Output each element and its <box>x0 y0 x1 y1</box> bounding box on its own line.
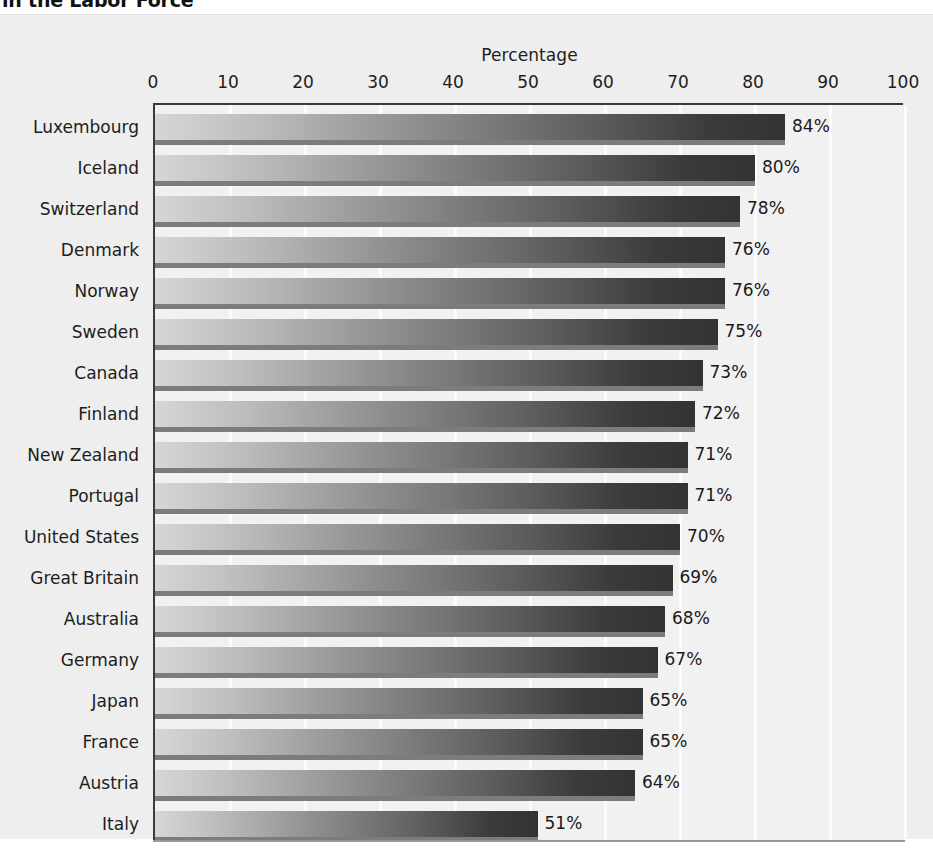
bar-united-states[interactable] <box>155 524 680 550</box>
plot-area: 84%80%78%76%76%75%73%72%71%71%70%69%68%6… <box>153 103 903 842</box>
category-label-germany: Germany <box>0 640 147 681</box>
bar-row: 78% <box>155 191 903 232</box>
bar-shadow <box>155 304 725 309</box>
bar-shadow <box>155 140 785 145</box>
bar-value-label: 67% <box>665 649 703 669</box>
bar-luxembourg[interactable] <box>155 114 785 140</box>
bar-value-label: 65% <box>650 690 688 710</box>
bar-value-label: 64% <box>642 772 680 792</box>
chart-figure: in the Labor Force Percentage 0102030405… <box>0 0 933 852</box>
bar-australia[interactable] <box>155 606 665 632</box>
bar-row: 80% <box>155 150 903 191</box>
bar-shadow <box>155 386 703 391</box>
bar-row: 71% <box>155 437 903 478</box>
bar-shadow <box>155 673 658 678</box>
bar-value-label: 51% <box>545 813 583 833</box>
x-tick-label-90: 90 <box>817 72 839 92</box>
x-tick-label-10: 10 <box>217 72 239 92</box>
x-axis-tick-row: 0102030405060708090100 <box>0 72 933 98</box>
chart-panel: Percentage 0102030405060708090100 84%80%… <box>0 14 933 839</box>
category-labels: LuxembourgIcelandSwitzerlandDenmarkNorwa… <box>0 103 147 842</box>
bar-shadow <box>155 796 635 801</box>
bar-value-label: 80% <box>762 157 800 177</box>
bar-shadow <box>155 345 718 350</box>
bar-shadow <box>155 468 688 473</box>
category-label-portugal: Portugal <box>0 476 147 517</box>
bar-new-zealand[interactable] <box>155 442 688 468</box>
bar-row: 84% <box>155 109 903 150</box>
category-label-australia: Australia <box>0 599 147 640</box>
category-label-canada: Canada <box>0 353 147 394</box>
x-tick-label-20: 20 <box>292 72 314 92</box>
bar-sweden[interactable] <box>155 319 718 345</box>
category-label-denmark: Denmark <box>0 230 147 271</box>
category-label-finland: Finland <box>0 394 147 435</box>
category-label-norway: Norway <box>0 271 147 312</box>
bar-portugal[interactable] <box>155 483 688 509</box>
bar-shadow <box>155 181 755 186</box>
bar-shadow <box>155 714 643 719</box>
bar-row: 73% <box>155 355 903 396</box>
bar-shadow <box>155 591 673 596</box>
bar-value-label: 71% <box>695 485 733 505</box>
x-tick-label-40: 40 <box>442 72 464 92</box>
bar-value-label: 69% <box>680 567 718 587</box>
bar-france[interactable] <box>155 729 643 755</box>
x-tick-label-0: 0 <box>148 72 159 92</box>
bar-shadow <box>155 427 695 432</box>
bar-iceland[interactable] <box>155 155 755 181</box>
bar-value-label: 72% <box>702 403 740 423</box>
x-tick-label-80: 80 <box>742 72 764 92</box>
gridline-100 <box>904 105 907 842</box>
bar-value-label: 70% <box>687 526 725 546</box>
bar-value-label: 76% <box>732 239 770 259</box>
category-label-france: France <box>0 722 147 763</box>
bar-denmark[interactable] <box>155 237 725 263</box>
bar-row: 72% <box>155 396 903 437</box>
bar-row: 75% <box>155 314 903 355</box>
bar-germany[interactable] <box>155 647 658 673</box>
bar-japan[interactable] <box>155 688 643 714</box>
bar-row: 76% <box>155 273 903 314</box>
cut-off-title: in the Labor Force <box>0 0 933 14</box>
bar-shadow <box>155 550 680 555</box>
category-label-japan: Japan <box>0 681 147 722</box>
bar-row: 64% <box>155 765 903 806</box>
bar-austria[interactable] <box>155 770 635 796</box>
bar-great-britain[interactable] <box>155 565 673 591</box>
bar-italy[interactable] <box>155 811 538 837</box>
bar-value-label: 76% <box>732 280 770 300</box>
x-tick-label-70: 70 <box>667 72 689 92</box>
x-tick-label-30: 30 <box>367 72 389 92</box>
bar-row: 68% <box>155 601 903 642</box>
bar-switzerland[interactable] <box>155 196 740 222</box>
category-label-sweden: Sweden <box>0 312 147 353</box>
bar-row: 69% <box>155 560 903 601</box>
x-tick-label-60: 60 <box>592 72 614 92</box>
bar-shadow <box>155 509 688 514</box>
bar-rows: 84%80%78%76%76%75%73%72%71%71%70%69%68%6… <box>155 105 903 842</box>
bar-row: 67% <box>155 642 903 683</box>
bar-shadow <box>155 263 725 268</box>
category-label-new-zealand: New Zealand <box>0 435 147 476</box>
bar-finland[interactable] <box>155 401 695 427</box>
category-label-austria: Austria <box>0 763 147 804</box>
bar-value-label: 73% <box>710 362 748 382</box>
bar-shadow <box>155 222 740 227</box>
bar-row: 70% <box>155 519 903 560</box>
bar-canada[interactable] <box>155 360 703 386</box>
plot-bottom-rule <box>153 840 905 842</box>
bar-row: 71% <box>155 478 903 519</box>
bar-row: 65% <box>155 683 903 724</box>
category-label-switzerland: Switzerland <box>0 189 147 230</box>
page-title: in the Labor Force <box>0 0 933 12</box>
category-label-italy: Italy <box>0 804 147 845</box>
category-label-luxembourg: Luxembourg <box>0 107 147 148</box>
bar-shadow <box>155 755 643 760</box>
bar-shadow <box>155 632 665 637</box>
bar-norway[interactable] <box>155 278 725 304</box>
category-label-united-states: United States <box>0 517 147 558</box>
category-label-great-britain: Great Britain <box>0 558 147 599</box>
bar-value-label: 84% <box>792 116 830 136</box>
x-axis-title: Percentage <box>0 45 933 65</box>
